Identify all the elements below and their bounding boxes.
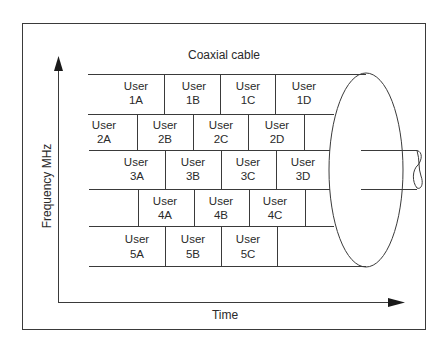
x-axis-arrow-icon (388, 298, 405, 307)
svg-text:User: User (181, 156, 205, 168)
svg-text:User: User (124, 156, 148, 168)
cable-cross-section-icon (329, 73, 403, 267)
svg-text:3C: 3C (241, 170, 256, 182)
svg-text:User: User (92, 119, 116, 131)
slot-user-4b: User 4B (209, 195, 233, 221)
channel-row-5: User 5A User 5B User 5C (125, 233, 260, 260)
svg-text:User: User (292, 80, 316, 92)
svg-text:2A: 2A (97, 133, 111, 145)
svg-text:User: User (181, 233, 205, 245)
slot-user-1b: User 1B (182, 80, 206, 106)
svg-text:5C: 5C (241, 248, 256, 260)
slot-user-1a: User 1A (124, 80, 148, 106)
svg-text:User: User (182, 80, 206, 92)
svg-text:3B: 3B (186, 170, 200, 182)
svg-text:User: User (209, 195, 233, 207)
svg-text:User: User (263, 195, 287, 207)
diagram-title: Coaxial cable (188, 48, 260, 62)
slot-user-3d: User 3D (291, 156, 315, 182)
svg-text:2C: 2C (214, 133, 229, 145)
svg-text:User: User (153, 119, 177, 131)
slot-user-2c: User 2C (209, 119, 233, 145)
y-axis: Frequency MHz (40, 56, 63, 302)
svg-text:1D: 1D (297, 94, 312, 106)
slot-user-4c: User 4C (263, 195, 287, 221)
channel-row-3: User 3A User 3B User 3C User 3D (124, 156, 315, 182)
slot-user-3a: User 3A (124, 156, 148, 182)
slot-user-2d: User 2D (265, 119, 289, 145)
svg-text:1C: 1C (241, 94, 256, 106)
coaxial-fdm-tdm-diagram: Coaxial cable Frequency MHz Time (0, 0, 447, 347)
svg-text:1B: 1B (186, 94, 200, 106)
channel-row-2: User 2A User 2B User 2C User 2D (92, 119, 289, 145)
svg-text:4A: 4A (158, 209, 172, 221)
svg-text:3A: 3A (130, 170, 144, 182)
slot-user-5c: User 5C (236, 233, 260, 260)
svg-text:2B: 2B (158, 133, 172, 145)
slot-user-4a: User 4A (153, 195, 177, 221)
slot-user-2b: User 2B (153, 119, 177, 145)
slot-dividers (138, 74, 306, 266)
slot-user-3b: User 3B (181, 156, 205, 182)
svg-text:5B: 5B (186, 248, 200, 260)
inner-conductor-icon (361, 151, 422, 190)
svg-text:User: User (124, 80, 148, 92)
slot-user-5b: User 5B (181, 233, 205, 260)
svg-text:4C: 4C (268, 209, 283, 221)
slot-user-2a: User 2A (92, 119, 116, 145)
svg-text:2D: 2D (270, 133, 285, 145)
y-axis-arrow-icon (54, 56, 63, 71)
channel-row-4: User 4A User 4B User 4C (153, 195, 287, 221)
svg-text:User: User (209, 119, 233, 131)
svg-text:4B: 4B (214, 209, 228, 221)
x-axis: Time (58, 298, 405, 322)
svg-text:User: User (236, 80, 260, 92)
slot-user-5a: User 5A (125, 233, 149, 260)
svg-text:User: User (236, 156, 260, 168)
x-axis-label: Time (212, 308, 239, 322)
svg-text:User: User (125, 233, 149, 245)
svg-text:User: User (265, 119, 289, 131)
svg-text:User: User (153, 195, 177, 207)
svg-text:5A: 5A (130, 248, 144, 260)
outer-frame (23, 24, 426, 330)
svg-text:3D: 3D (296, 170, 311, 182)
y-axis-label: Frequency MHz (40, 144, 54, 229)
svg-text:User: User (291, 156, 315, 168)
svg-text:1A: 1A (129, 94, 143, 106)
slot-user-1d: User 1D (292, 80, 316, 106)
slot-user-1c: User 1C (236, 80, 260, 106)
svg-text:User: User (236, 233, 260, 245)
slot-user-3c: User 3C (236, 156, 260, 182)
